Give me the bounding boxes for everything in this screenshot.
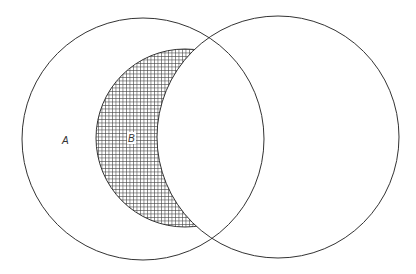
label-a: A bbox=[61, 135, 69, 146]
label-b: B bbox=[128, 133, 135, 144]
venn-diagram: A B bbox=[0, 0, 416, 274]
